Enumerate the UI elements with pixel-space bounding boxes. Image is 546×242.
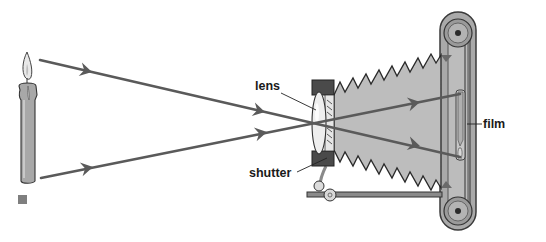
shutter-label: shutter — [249, 167, 291, 180]
bottom-roller-icon — [444, 197, 472, 225]
bellows — [334, 54, 441, 190]
marker-square — [18, 195, 27, 204]
candle — [19, 52, 37, 183]
film — [456, 90, 465, 161]
film-label: film — [483, 118, 505, 131]
top-roller-icon — [444, 19, 472, 47]
lens-label: lens — [255, 80, 280, 93]
lens-leader — [281, 93, 316, 110]
camera-diagram — [0, 0, 546, 242]
